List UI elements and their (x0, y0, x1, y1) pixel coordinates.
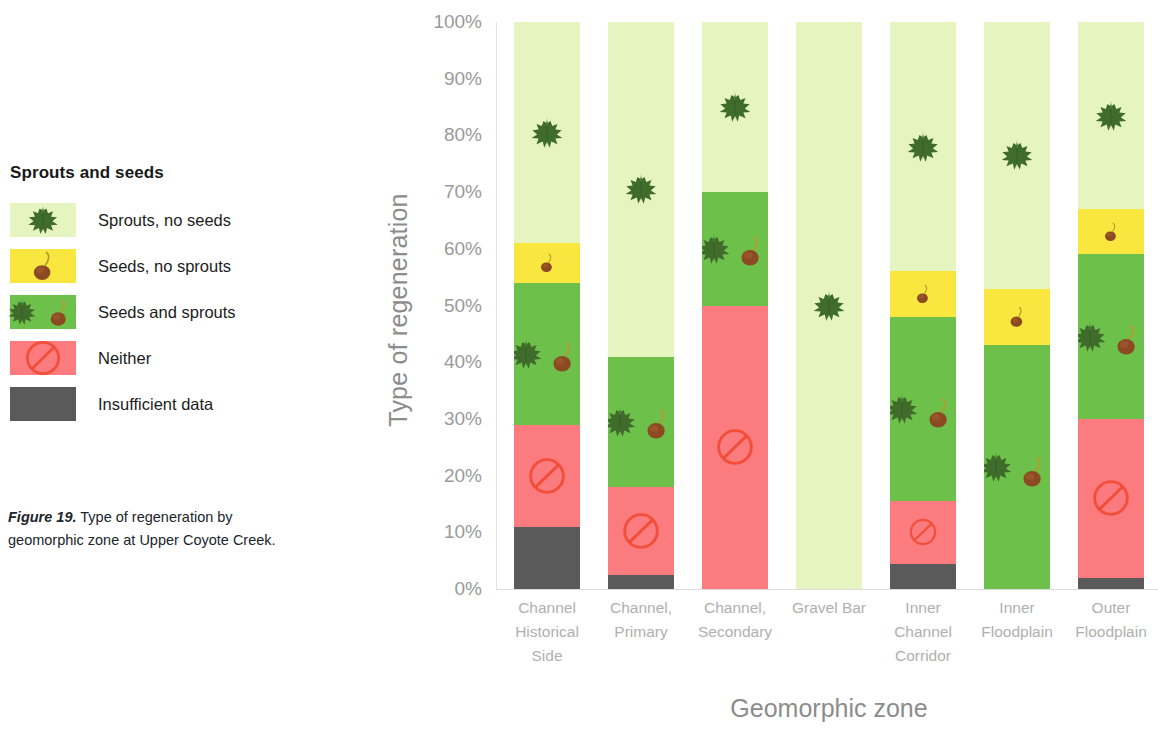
bar-segment[interactable] (984, 22, 1050, 288)
bar-segment[interactable] (796, 22, 862, 589)
y-axis-ticks: 100%90%80%70%60%50%40%30%20%10%0% (404, 0, 500, 589)
bar-3[interactable] (796, 22, 862, 589)
x-axis-tick-labels: ChannelHistoricalSideChannel,PrimaryChan… (500, 596, 1158, 686)
x-tick-label-4: InnerChannelCorridor (875, 596, 971, 668)
bar-segment[interactable] (514, 243, 580, 283)
legend-item-seeds_no_sprouts: Seeds, no sprouts (8, 243, 338, 289)
y-tick-label: 60% (404, 238, 482, 260)
prohibition-icon (715, 427, 756, 468)
bar-segment[interactable] (702, 22, 768, 192)
bar-segment[interactable] (514, 283, 580, 425)
bar-segment[interactable] (890, 501, 956, 563)
x-tick-line: Historical (499, 620, 595, 644)
bar-segment[interactable] (890, 271, 956, 316)
legend-item-sprouts_no_seeds: Sprouts, no seeds (8, 197, 338, 243)
x-axis-title: Geomorphic zone (500, 694, 1158, 723)
bar-6[interactable] (1078, 22, 1144, 589)
y-tick-label: 100% (404, 11, 482, 33)
x-tick-line: Gravel Bar (781, 596, 877, 620)
bar-segment[interactable] (1078, 209, 1144, 254)
seed-icon (548, 340, 577, 374)
stacked-bar-chart: Type of regeneration 100%90%80%70%60%50%… (404, 0, 1158, 747)
leaf-icon (608, 405, 638, 439)
bar-4[interactable] (890, 22, 956, 589)
prohibition-icon (23, 338, 62, 377)
leaf-icon (6, 297, 38, 326)
x-tick-line: Outer (1063, 596, 1158, 620)
leaf-icon (1093, 99, 1129, 133)
y-tick-label: 50% (404, 295, 482, 317)
y-tick-label: 30% (404, 408, 482, 430)
x-tick-label-3: Gravel Bar (781, 596, 877, 620)
legend-label: Insufficient data (98, 395, 213, 414)
prohibition-icon (621, 510, 662, 551)
bar-segment[interactable] (514, 527, 580, 589)
x-tick-line: Inner (875, 596, 971, 620)
y-tick-label: 40% (404, 351, 482, 373)
bar-5[interactable] (984, 22, 1050, 589)
x-tick-line: Channel (875, 620, 971, 644)
bar-segment[interactable] (514, 22, 580, 243)
seed-icon (914, 284, 932, 305)
prohibition-icon (1091, 478, 1132, 519)
figure-caption: Figure 19. Type of regeneration by geomo… (8, 506, 308, 553)
bar-segment[interactable] (890, 564, 956, 590)
x-tick-line: Floodplain (1063, 620, 1158, 644)
bar-segment[interactable] (1078, 254, 1144, 418)
bar-segment[interactable] (608, 487, 674, 575)
x-tick-line: Inner (969, 596, 1065, 620)
prohibition-icon (908, 517, 938, 547)
seed-icon (538, 252, 556, 273)
seed-icon (1007, 306, 1026, 329)
x-axis-line (496, 589, 1158, 590)
x-tick-label-2: Channel,Secondary (687, 596, 783, 644)
leaf-icon (717, 90, 753, 124)
legend-swatch-insufficient_data (10, 387, 76, 421)
bar-segment[interactable] (608, 575, 674, 589)
legend-item-insufficient_data: Insufficient data (8, 381, 338, 427)
bar-segment[interactable] (890, 317, 956, 501)
leaf-icon (1078, 320, 1108, 354)
legend-swatch-sprouts_no_seeds (10, 203, 76, 237)
leaf-icon (890, 392, 920, 426)
seed-icon (46, 298, 71, 327)
x-tick-line: Primary (593, 620, 689, 644)
x-tick-line: Side (499, 644, 595, 668)
y-tick-label: 20% (404, 465, 482, 487)
bar-segment[interactable] (608, 22, 674, 357)
leaf-icon (905, 130, 941, 164)
bar-segment[interactable] (984, 289, 1050, 346)
legend-item-neither: Neither (8, 335, 338, 381)
legend-label: Seeds and sprouts (98, 303, 236, 322)
y-tick-label: 90% (404, 68, 482, 90)
y-tick-label: 10% (404, 521, 482, 543)
bar-segment[interactable] (890, 22, 956, 271)
prohibition-icon (527, 455, 568, 496)
bar-2[interactable] (702, 22, 768, 589)
legend-label: Seeds, no sprouts (98, 257, 231, 276)
chart-legend: Sprouts and seeds Sprouts, no seedsSeeds… (8, 163, 338, 427)
legend-item-seeds_and_sprouts: Seeds and sprouts (8, 289, 338, 335)
bar-segment[interactable] (702, 306, 768, 590)
x-tick-label-5: InnerFloodplain (969, 596, 1065, 644)
x-tick-label-1: Channel,Primary (593, 596, 689, 644)
bar-segment[interactable] (702, 192, 768, 305)
legend-label: Neither (98, 349, 151, 368)
seed-icon (1018, 455, 1047, 489)
x-tick-line: Corridor (875, 644, 971, 668)
bar-segment[interactable] (608, 357, 674, 487)
figure-number: Figure 19. (8, 509, 77, 525)
bar-segment[interactable] (514, 425, 580, 527)
bar-segment[interactable] (1078, 578, 1144, 589)
bar-group (500, 22, 1158, 589)
y-axis-line (496, 22, 497, 589)
bar-segment[interactable] (984, 345, 1050, 589)
seed-icon (736, 234, 765, 268)
bar-1[interactable] (608, 22, 674, 589)
x-tick-label-6: OuterFloodplain (1063, 596, 1158, 644)
figure-root: Sprouts and seeds Sprouts, no seedsSeeds… (0, 0, 1158, 747)
bar-segment[interactable] (1078, 419, 1144, 578)
leaf-icon (514, 337, 544, 371)
bar-0[interactable] (514, 22, 580, 589)
bar-segment[interactable] (1078, 22, 1144, 209)
